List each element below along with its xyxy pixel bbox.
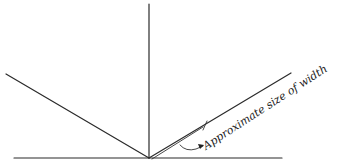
reflection-angle-diagram: Approximate size of width [0,0,337,165]
annotation-label: Approximate size of width [200,62,330,153]
left-diagonal-line [6,74,149,158]
right-diagonal-line [149,73,291,158]
curved-arrow [180,144,204,150]
